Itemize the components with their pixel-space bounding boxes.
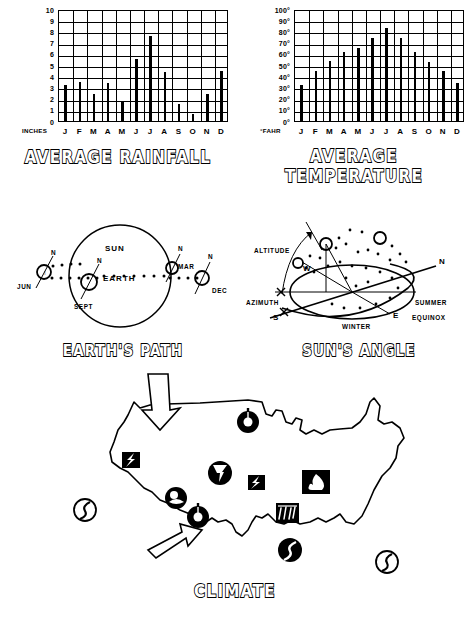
hurricane-icon: [74, 499, 96, 521]
x-axis-tick-label: M: [86, 127, 100, 136]
gridline-vertical: [338, 11, 339, 121]
y-axis-tick-label: 8: [0, 29, 54, 36]
y-axis-tick-label: 30°: [238, 85, 290, 92]
thermometer-icon: [237, 408, 259, 433]
y-axis-tick-label: 2: [0, 96, 54, 103]
gridline-horizontal: [59, 56, 227, 57]
us-map-graphic: [0, 372, 470, 582]
gridline-vertical: [130, 11, 131, 121]
gridline-vertical: [309, 11, 310, 121]
y-axis-tick-label: 3: [0, 85, 54, 92]
x-axis-tick-label: A: [157, 127, 171, 136]
gridline-vertical: [158, 11, 159, 121]
bar: [192, 114, 195, 121]
bar: [371, 38, 374, 121]
x-axis-tick-label: M: [322, 127, 336, 136]
pole-label-sept: N: [97, 257, 102, 264]
y-axis-tick-label: 1: [0, 107, 54, 114]
y-axis-tick-label: 7: [0, 40, 54, 47]
x-axis-tick-label: J: [58, 127, 72, 136]
pole-label-dec: N: [208, 253, 213, 260]
gridline-vertical: [215, 11, 216, 121]
x-axis-tick-label: M: [351, 127, 365, 136]
svg-text:|: |: [44, 270, 45, 275]
earth-label: EARTH: [103, 274, 136, 283]
bar: [385, 28, 388, 121]
gridline-horizontal: [59, 22, 227, 23]
gridline-horizontal: [59, 45, 227, 46]
bar: [357, 48, 360, 121]
earth-sept: [81, 264, 99, 299]
gridline-vertical: [408, 11, 409, 121]
azimuth-label: AZIMUTH: [246, 299, 279, 306]
y-axis-tick-label: 50°: [238, 63, 290, 70]
rainfall-title: AVERAGE RAINFALL: [12, 147, 224, 167]
y-axis-tick-label: 20°: [238, 96, 290, 103]
gridline-vertical: [201, 11, 202, 121]
month-label-dec: DEC: [212, 287, 227, 294]
bar: [149, 36, 152, 121]
gridline-vertical: [73, 11, 74, 121]
sun-cloud-icon: [165, 487, 187, 509]
sun-label: SUN: [105, 244, 125, 253]
y-axis-tick-label: 10°: [238, 107, 290, 114]
y-axis-tick-label: 100°: [238, 7, 290, 14]
x-axis-tick-label: A: [101, 127, 115, 136]
x-axis-tick-label: O: [422, 127, 436, 136]
sun-position-west: [293, 258, 303, 268]
compass-label-s: S: [273, 313, 279, 322]
arrow-down-right-icon: [142, 374, 180, 430]
gridline-vertical: [451, 11, 452, 121]
sun-position-summer: [374, 232, 386, 244]
suns-angle-diagram: ALTITUDE AZIMUTH N S E W SUMMER EQUINOX …: [240, 216, 470, 366]
y-axis-tick-label: 10: [0, 7, 54, 14]
gridline-horizontal: [295, 112, 463, 113]
x-axis-tick-label: F: [308, 127, 322, 136]
altitude-label: ALTITUDE: [254, 247, 290, 254]
temperature-axis-caption: °FAHR: [260, 127, 281, 134]
path-label-winter: WINTER: [342, 323, 371, 330]
month-label-mar: MAR: [178, 263, 194, 270]
gridline-horizontal: [295, 22, 463, 23]
y-axis-tick-label: 9: [0, 18, 54, 25]
climate-title: CLIMATE: [135, 581, 335, 601]
climate-map: CLIMATE: [0, 372, 470, 618]
gridline-vertical: [394, 11, 395, 121]
gridline-vertical: [172, 11, 173, 121]
bar: [315, 71, 318, 121]
bar: [93, 94, 96, 121]
tornado-icon: [208, 461, 232, 485]
y-axis-tick-label: 70°: [238, 40, 290, 47]
bar: [456, 83, 459, 121]
y-axis-tick-label: 0°: [238, 119, 290, 126]
month-label-jun: JUN: [17, 283, 32, 290]
x-axis-tick-label: D: [214, 127, 228, 136]
x-axis-tick-label: F: [72, 127, 86, 136]
bar: [107, 83, 110, 121]
bar: [343, 52, 346, 121]
gridline-horizontal: [295, 45, 463, 46]
lightning-icon: [122, 452, 140, 468]
rainfall-plot-area: [58, 10, 228, 122]
arrow-up-right-icon: [148, 524, 202, 558]
gridline-horizontal: [295, 56, 463, 57]
compass-label-n: N: [439, 257, 446, 266]
gridline-vertical: [323, 11, 324, 121]
x-axis-tick-label: D: [450, 127, 464, 136]
compass-label-w: W: [303, 264, 312, 273]
bar: [64, 85, 67, 121]
x-axis-tick-label: N: [436, 127, 450, 136]
fire-icon: [302, 470, 330, 494]
hurricane-icon: [278, 538, 302, 562]
earth-path-diagram: | SUN EARTH JUN MAR SEPT DEC N N N N EAR…: [8, 216, 236, 366]
thermometer-icon: [187, 503, 209, 528]
bar: [164, 72, 167, 121]
x-axis-tick-label: J: [365, 127, 379, 136]
path-label-equinox: EQUINOX: [412, 314, 446, 321]
rain-icon: [276, 503, 299, 523]
y-axis-tick-label: 6: [0, 51, 54, 58]
bar: [79, 82, 82, 121]
gridline-vertical: [102, 11, 103, 121]
gridline-vertical: [437, 11, 438, 121]
suns-angle-title: SUN'S ANGLE: [276, 341, 442, 359]
